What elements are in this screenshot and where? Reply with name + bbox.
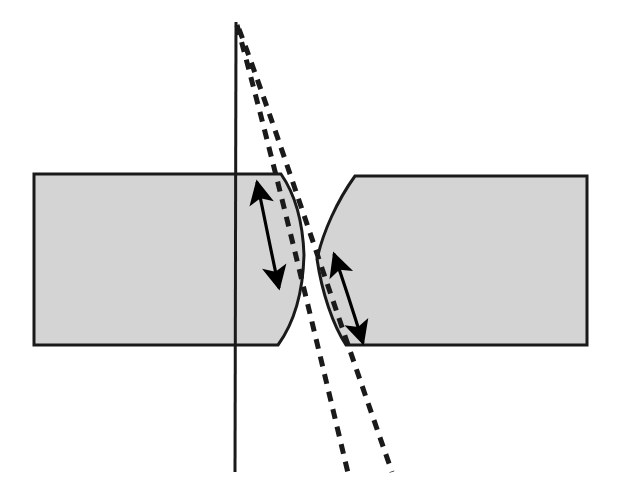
solid-reference-line xyxy=(235,22,236,472)
left-specimen-block xyxy=(34,174,304,345)
right-specimen-block xyxy=(317,176,587,345)
technical-diagram xyxy=(0,0,617,500)
diagram-canvas xyxy=(0,0,617,500)
